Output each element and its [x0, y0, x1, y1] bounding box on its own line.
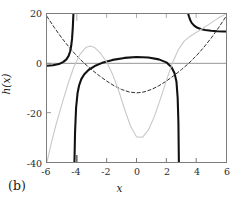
xtick-label-2: 2 [157, 166, 177, 177]
curve-canvas [47, 14, 226, 162]
xtick-label-minus6: -6 [36, 166, 56, 177]
x-axis-label: x [0, 182, 239, 194]
xtick-label-6: 6 [217, 166, 237, 177]
ytick-label-minus20: -20 [12, 108, 42, 119]
ytick-label-0: 0 [16, 58, 42, 69]
y-axis-label: h(x) [0, 64, 12, 104]
series-h-solid [74, 57, 178, 162]
figure-panel-b: 20 0 -20 -40 -6 -4 -2 0 2 4 6 x h(x) (b) [0, 0, 239, 202]
xtick-label-4: 4 [187, 166, 207, 177]
xtick-label-minus2: -2 [96, 166, 116, 177]
panel-label: (b) [8, 178, 26, 193]
ytick-label-20: 20 [16, 8, 42, 19]
xtick-label-0: 0 [127, 166, 147, 177]
plot-area [46, 13, 227, 163]
xtick-label-minus4: -4 [66, 166, 86, 177]
series-h-light [47, 14, 226, 162]
